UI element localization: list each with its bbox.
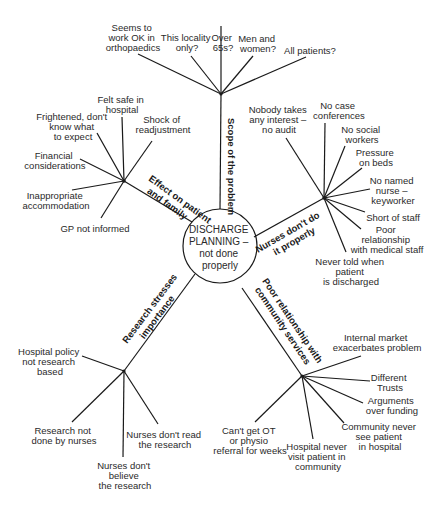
- branch-effect: Effect on patient and family Felt safe i…: [22, 94, 215, 236]
- leaf-hospital-never-visit: Hospital never visit patient in communit…: [286, 441, 349, 472]
- leaf-financial: Financial considerations: [24, 150, 86, 171]
- leaf-no-named-nurse: No named nurse – keyworker: [370, 175, 416, 206]
- leaf-no-social-workers: No social workers: [341, 124, 383, 145]
- branch-label-scope: Scope of the problem: [226, 118, 237, 215]
- leaf-shock: Shock of readjustment: [136, 114, 191, 135]
- hub-community: [300, 374, 303, 377]
- leaf-all-patients: All patients?: [284, 45, 336, 56]
- mind-map-canvas: DISCHARGE PLANNING – not done properly S…: [0, 0, 442, 515]
- leaf-gp-not-informed: GP not informed: [60, 223, 129, 234]
- leaf-nobody-interest: Nobody takes any interest – no audit: [249, 104, 310, 135]
- leaf-men-women: Men and women?: [238, 33, 278, 54]
- leaf-short-of-staff: Short of staff: [366, 212, 420, 223]
- leaf-internal-market: Internal market exacerbates problem: [333, 332, 422, 353]
- leaf-locality: This locality only?: [161, 32, 213, 53]
- branch-community: Poor relationship with community service…: [213, 276, 421, 472]
- leaf-over-65s: Over 65s?: [211, 32, 234, 53]
- leaf-never-told: Never told when patient is discharged: [315, 256, 386, 287]
- leaf-arguments-funding: Arguments over funding: [366, 395, 418, 416]
- hub-research: [122, 369, 125, 372]
- leaf-orthopaedics: Seems to work OK in orthopaedics: [106, 22, 161, 53]
- leaf-nurses-dont-read: Nurses don't read the research: [126, 429, 203, 450]
- leaf-no-case-conferences: No case conferences: [313, 100, 365, 121]
- branch-label-research: Research stresses importance: [120, 269, 190, 351]
- leaf-pressure-beds: Pressure on beds: [356, 147, 397, 168]
- branch-nurses: Nurses don't do it properly Nobody takes…: [249, 100, 424, 287]
- leaf-hospital-policy: Hospital policy not research based: [18, 346, 82, 377]
- leaf-different-trusts: Different Trusts: [371, 372, 409, 393]
- hub-scope: [219, 92, 222, 95]
- leaf-nurses-dont-believe: Nurses don't believe the research: [97, 460, 153, 491]
- hub-effect: [122, 179, 126, 183]
- leaf-accommodation: Inappropriate accommodation: [22, 190, 89, 211]
- leaf-research-not-done: Research not done by nurses: [32, 425, 97, 446]
- leaf-community-never-see: Community never see patient in hospital: [341, 421, 418, 452]
- branch-research: Research stresses importance Hospital po…: [18, 269, 204, 491]
- leaf-cant-get-ot: Can't get OT or physio referral for week…: [213, 425, 287, 456]
- hub-nurses: [322, 196, 326, 200]
- branch-label-community: Poor relationship with community service…: [251, 276, 327, 373]
